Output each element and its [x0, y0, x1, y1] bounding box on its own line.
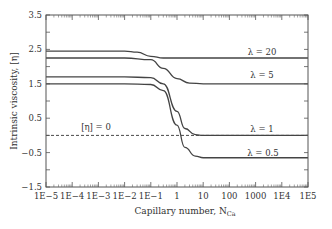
- x-tick-label: 1: [174, 191, 179, 201]
- intrinsic-viscosity-chart: 1E−51E−41E−31E−21E−111010010001E41E53.52…: [0, 0, 332, 229]
- series-line-3: [46, 84, 308, 158]
- label-lambda-5: λ = 5: [250, 70, 273, 80]
- x-tick-label: 1000: [245, 191, 267, 201]
- x-tick-label: 10: [198, 191, 209, 201]
- x-tick-label: 1E5: [299, 191, 316, 201]
- y-tick-label: 0.5: [28, 113, 42, 123]
- x-tick-label: 1E−2: [113, 191, 137, 201]
- y-tick-label: 2.5: [28, 44, 42, 54]
- x-tick-label: 100: [221, 191, 237, 201]
- x-tick-label: 1E−5: [34, 191, 58, 201]
- labels: [η] = 0λ = 20λ = 5λ = 1λ = 0.5: [81, 47, 279, 158]
- y-axis-label: Intrinsic viscosity, [η]: [9, 52, 19, 150]
- plot-area: [46, 51, 308, 158]
- label-lambda-1: λ = 1: [250, 124, 273, 134]
- label-lambda-20: λ = 20: [248, 47, 277, 57]
- y-tick-label: 1.5: [28, 79, 42, 89]
- axes: 1E−51E−41E−31E−21E−111010010001E41E53.52…: [9, 10, 317, 218]
- x-tick-label: 1E−1: [139, 191, 163, 201]
- y-tick-label: −1.5: [21, 182, 42, 192]
- y-tick-label: 3.5: [28, 10, 42, 20]
- x-tick-label: 1E−4: [60, 191, 84, 201]
- label-lambda-0-5: λ = 0.5: [247, 148, 278, 158]
- x-axis-label: Capillary number, NCa: [134, 206, 235, 218]
- x-tick-label: 1E−3: [86, 191, 110, 201]
- ref-line-label: [η] = 0: [81, 122, 111, 132]
- y-tick-label: −0.5: [21, 148, 42, 158]
- x-tick-label: 1E4: [273, 191, 290, 201]
- plot-frame: [46, 15, 308, 187]
